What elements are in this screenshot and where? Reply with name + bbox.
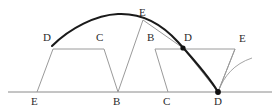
left-trapezoid [37, 49, 118, 92]
left-trapezoid-left-leg [37, 49, 53, 92]
label-right-e: E [239, 33, 246, 44]
label-left-c: C [96, 32, 103, 43]
label-bottom-b: B [113, 96, 120, 107]
point-d-upper [180, 45, 185, 50]
right-trapezoid-left-leg [155, 49, 168, 92]
line-top-e-to-b [118, 20, 143, 92]
label-right-b: B [147, 32, 154, 43]
label-left-d: D [43, 32, 51, 43]
label-right-d: D [184, 32, 192, 43]
left-trapezoid-right-leg [104, 49, 118, 92]
label-bottom-d: D [214, 96, 222, 107]
tail-arc [218, 58, 252, 92]
label-bottom-c: C [163, 96, 170, 107]
construction-lines [118, 20, 235, 92]
cycloid-arc [52, 14, 218, 92]
label-bottom-e: E [31, 96, 38, 107]
geometry-figure: E B C D D C E B D E [0, 0, 278, 112]
right-trapezoid [155, 49, 235, 92]
label-top-e: E [139, 7, 146, 18]
